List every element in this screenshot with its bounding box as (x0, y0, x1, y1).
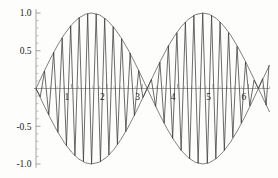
y-tick-label: -0.5 (16, 122, 31, 132)
aliased-sine-plot: 123456-1.0-0.50.51.0 (0, 0, 278, 178)
y-tick-label: 1.0 (20, 8, 32, 18)
y-tick-label: -1.0 (16, 159, 31, 169)
x-tick-label: 6 (242, 92, 247, 102)
x-tick-label: 5 (206, 92, 211, 102)
x-tick-label: 1 (65, 92, 70, 102)
x-tick-label: 2 (100, 92, 105, 102)
series-envelope-upper (36, 13, 270, 89)
x-tick-label: 3 (135, 92, 140, 102)
y-tick-label: 0.5 (20, 46, 32, 56)
plot-figure: 123456-1.0-0.50.51.0 (0, 0, 278, 178)
x-tick-label: 4 (171, 92, 176, 102)
axes (34, 9, 270, 168)
